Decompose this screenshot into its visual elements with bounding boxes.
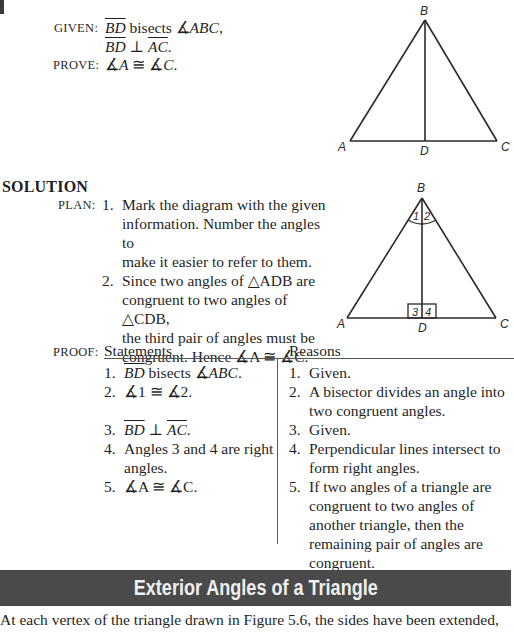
solution-heading: SOLUTION <box>2 178 88 196</box>
reason-row: 1.Given. <box>289 363 514 382</box>
vertex-a-label: A <box>337 140 346 154</box>
statement-row: 1.BD bisects ∡ABC. <box>104 363 274 382</box>
statement-row: 5.∡A ≅ ∡C. <box>104 477 274 496</box>
svg-text:D: D <box>418 321 427 335</box>
section-intro-text: At each vertex of the triangle drawn in … <box>0 611 499 629</box>
reason-row: 3.Given. <box>289 420 514 439</box>
plan-item: 1.Mark the diagram with the giveninforma… <box>102 195 332 271</box>
given-line-2: BD ⊥ AC. <box>105 37 172 56</box>
page-edge-mark <box>0 0 4 14</box>
angle-4-label: 4 <box>425 306 431 318</box>
reason-row: 2.A bisector divides an angle into two c… <box>289 382 514 420</box>
section-title: Exterior Angles of a Triangle <box>0 570 511 606</box>
angle-1-label: 1 <box>413 210 419 222</box>
plan-list: 1.Mark the diagram with the giveninforma… <box>102 195 332 366</box>
given-line-1: BD bisects ∡ABC, <box>105 18 223 37</box>
statement-row: 4.Angles 3 and 4 are right angles. <box>104 439 274 477</box>
reasons-column: 1.Given. 2.A bisector divides an angle i… <box>289 363 514 572</box>
segment-bd: BD <box>105 19 126 36</box>
prove-statement: ∡A ≅ ∡C. <box>105 55 177 74</box>
statement-row: 3.BD ⊥ AC. <box>104 420 274 439</box>
triangle-figure-marked: B A D C 1 2 3 4 <box>320 170 514 340</box>
vertex-c-label: C <box>501 140 510 154</box>
angle-2-label: 2 <box>423 210 430 222</box>
triangle-figure-given: B A D C <box>320 0 514 160</box>
table-header-rule <box>104 358 514 359</box>
vertex-b-label: B <box>420 4 428 18</box>
reason-row: 4.Perpendicular lines intersect to form … <box>289 439 514 477</box>
plan-label: PLAN: <box>58 198 96 213</box>
svg-text:C: C <box>500 317 509 331</box>
reason-row: 5.If two angles of a triangle are congru… <box>289 477 514 572</box>
svg-text:B: B <box>417 181 425 195</box>
statements-column: 1.BD bisects ∡ABC. 2.∡1 ≅ ∡2. 3.BD ⊥ AC.… <box>104 363 274 496</box>
point-d-label: D <box>420 144 429 158</box>
prove-label: PROVE: <box>53 58 99 73</box>
given-label: GIVEN: <box>54 21 98 36</box>
angle-3-label: 3 <box>412 306 419 318</box>
table-column-divider <box>277 358 278 544</box>
statement-row: 2.∡1 ≅ ∡2. <box>104 382 274 401</box>
proof-label: PROOF: <box>53 345 99 360</box>
svg-text:A: A <box>336 317 345 331</box>
